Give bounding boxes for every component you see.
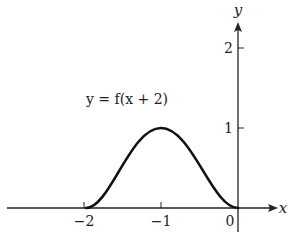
y-axis-label: y bbox=[233, 1, 243, 19]
x-axis-label: x bbox=[279, 199, 288, 217]
plot-canvas: −2 −1 0 1 2 x y y = f(x + 2) bbox=[0, 0, 290, 250]
x-tick-label-neg2: −2 bbox=[74, 213, 95, 229]
curve-annotation: y = f(x + 2) bbox=[85, 91, 168, 107]
x-tick-label-0: 0 bbox=[226, 213, 235, 229]
y-tick-label-2: 2 bbox=[224, 40, 233, 56]
y-tick-label-1: 1 bbox=[224, 120, 233, 136]
curve-series bbox=[86, 128, 238, 208]
x-tick-label-neg1: −1 bbox=[151, 213, 172, 229]
graph-figure: −2 −1 0 1 2 x y y = f(x + 2) bbox=[0, 0, 290, 250]
